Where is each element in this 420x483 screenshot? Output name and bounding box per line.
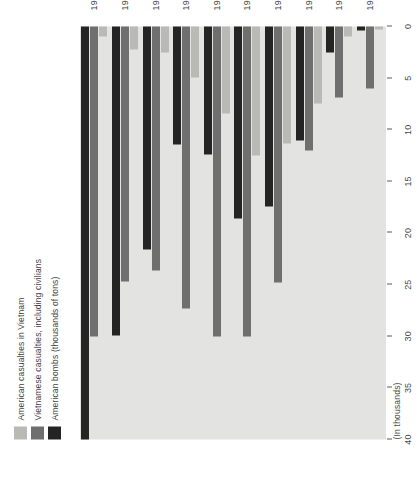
- bar: [335, 26, 343, 97]
- bar: [357, 26, 365, 30]
- axis-tick-label: 20: [403, 227, 413, 237]
- bar: [366, 26, 374, 88]
- axis-tick-label: 5: [403, 75, 413, 80]
- bar: [296, 26, 304, 140]
- bar: [130, 26, 138, 49]
- bar: [243, 26, 251, 336]
- axis-tick: [387, 335, 392, 336]
- chart-legend: American casualties in VietnamVietnamese…: [14, 19, 70, 439]
- bar: [173, 26, 181, 144]
- legend-label: Vietnamese casualties, including civilia…: [33, 258, 43, 420]
- bar: [213, 26, 221, 336]
- category-label-1965: 1965: [304, 0, 314, 10]
- bar: [152, 26, 160, 270]
- bar: [182, 26, 190, 308]
- bar: [375, 26, 383, 29]
- axis-tick: [387, 77, 392, 78]
- axis-tick-label: 0: [403, 23, 413, 28]
- category-label-1967: 1967: [242, 0, 252, 10]
- legend-label: American casualties in Vietnam: [16, 297, 26, 420]
- bar: [99, 26, 107, 36]
- category-label-1964: 1964: [334, 0, 344, 10]
- bar: [274, 26, 282, 282]
- chart-stage: American casualties in VietnamVietnamese…: [0, 0, 420, 483]
- category-label-1963: 1963: [365, 0, 375, 10]
- axis-tick-label: 25: [403, 279, 413, 289]
- bar: [81, 26, 89, 439]
- bar: [344, 26, 352, 36]
- bar: [305, 26, 313, 150]
- bar: [191, 26, 199, 77]
- axis-tick: [387, 128, 392, 129]
- axis-tick-label: 35: [403, 382, 413, 392]
- category-label-1966: 1966: [273, 0, 283, 10]
- axis-tick: [387, 25, 392, 26]
- axis-tick-label: 15: [403, 176, 413, 186]
- axis-tick-label: 10: [403, 124, 413, 134]
- value-axis: 4035302520151050: [386, 26, 387, 439]
- bar: [90, 26, 98, 336]
- bar: [234, 26, 242, 218]
- legend-item[interactable]: American casualties in Vietnam: [14, 297, 27, 439]
- plot-area: 4035302520151050 19721971197019691968196…: [80, 26, 386, 439]
- axis-tick: [387, 283, 392, 284]
- legend-swatch-icon: [31, 426, 44, 439]
- legend-swatch-icon: [48, 426, 61, 439]
- axis-tick-label: 40: [403, 434, 413, 444]
- legend-item[interactable]: American bombs (thousands of tons): [48, 276, 61, 439]
- category-label-1970: 1970: [151, 0, 161, 10]
- chart-page: American casualties in VietnamVietnamese…: [0, 0, 420, 483]
- category-label-1971: 1971: [120, 0, 130, 10]
- category-label-1969: 1969: [181, 0, 191, 10]
- bar: [143, 26, 151, 249]
- category-label-1968: 1968: [212, 0, 222, 10]
- bar: [121, 26, 129, 281]
- bar: [265, 26, 273, 206]
- unit-caption: (In thousands): [392, 382, 402, 439]
- bar: [283, 26, 291, 143]
- category-label-1972: 1972: [89, 0, 99, 10]
- axis-tick: [387, 180, 392, 181]
- legend-item[interactable]: Vietnamese casualties, including civilia…: [31, 258, 44, 439]
- legend-label: American bombs (thousands of tons): [50, 276, 60, 420]
- bar: [252, 26, 260, 155]
- bar: [204, 26, 212, 154]
- bar: [112, 26, 120, 335]
- bar: [314, 26, 322, 103]
- bar: [161, 26, 169, 52]
- axis-tick: [387, 232, 392, 233]
- bar: [222, 26, 230, 113]
- legend-swatch-icon: [14, 426, 27, 439]
- axis-tick-label: 30: [403, 331, 413, 341]
- bar: [326, 26, 334, 52]
